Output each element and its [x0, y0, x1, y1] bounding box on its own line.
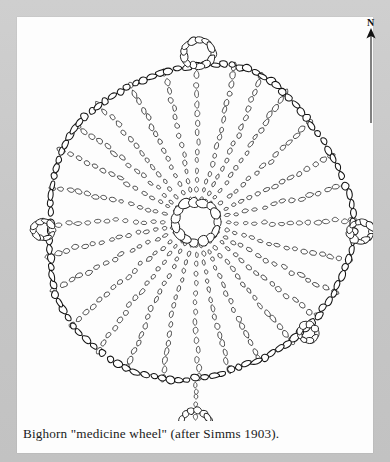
stone: [305, 308, 313, 316]
stone: [272, 151, 280, 159]
stone: [292, 246, 298, 251]
stone: [287, 221, 294, 225]
stone: [66, 221, 72, 225]
stone: [238, 157, 244, 163]
stone: [245, 105, 252, 113]
stone: [145, 208, 152, 213]
stone: [219, 339, 225, 347]
stone: [256, 302, 263, 309]
stone: [118, 199, 123, 203]
stone: [133, 142, 140, 149]
stone: [332, 217, 339, 221]
stone: [179, 142, 184, 148]
stone: [288, 270, 295, 276]
stone: [177, 181, 182, 187]
stone: [217, 332, 223, 340]
stone: [93, 264, 100, 270]
stone: [132, 185, 138, 191]
stone: [282, 293, 290, 300]
stone: [214, 323, 220, 330]
stone: [117, 175, 125, 181]
stone: [194, 389, 198, 394]
stone: [47, 269, 56, 282]
stone: [341, 219, 348, 224]
stone: [50, 172, 58, 180]
stone: [223, 99, 229, 107]
stone: [213, 265, 218, 271]
stone: [228, 298, 234, 305]
stone: [157, 288, 163, 295]
stone: [286, 174, 294, 180]
stone: [90, 241, 96, 246]
stone: [162, 233, 169, 238]
stone: [210, 161, 216, 168]
stone: [52, 163, 61, 174]
stone: [165, 155, 171, 162]
stone: [279, 198, 286, 203]
stone: [197, 139, 200, 145]
stone: [278, 222, 284, 225]
stone: [164, 347, 170, 356]
stone: [195, 177, 198, 182]
stone: [212, 244, 218, 251]
stone: [162, 178, 168, 184]
stone: [238, 198, 245, 204]
stone: [251, 88, 258, 96]
stone: [135, 339, 142, 347]
stone: [265, 109, 274, 119]
stone: [137, 260, 143, 266]
stone: [211, 181, 216, 188]
stone: [87, 132, 95, 140]
stone: [161, 280, 167, 286]
stone: [100, 108, 108, 116]
stone: [225, 246, 231, 252]
stone: [75, 316, 83, 323]
stone: [195, 157, 198, 162]
figure-caption: Bighorn "medicine wheel" (after Simms 19…: [23, 426, 279, 442]
stone: [223, 290, 229, 297]
stone: [262, 118, 270, 127]
stone: [131, 294, 138, 302]
stone: [151, 220, 157, 224]
stone: [254, 170, 260, 176]
stone: [169, 164, 174, 170]
stone: [202, 187, 206, 192]
stone: [292, 296, 300, 303]
stone: [241, 359, 252, 367]
stone: [332, 184, 340, 190]
stone: [142, 322, 149, 330]
stone: [229, 71, 236, 80]
stone: [141, 221, 146, 224]
stone: [67, 187, 75, 193]
stone: [84, 191, 91, 197]
stone: [224, 258, 230, 265]
stone: [172, 264, 177, 270]
stone: [234, 222, 239, 225]
stone: [109, 197, 117, 203]
stone: [144, 280, 150, 286]
stone: [196, 252, 199, 258]
stone: [134, 168, 141, 175]
stone: [153, 209, 159, 213]
stone: [246, 287, 252, 294]
stone: [346, 188, 353, 200]
stone: [322, 219, 330, 224]
stone: [222, 106, 228, 114]
stone: [122, 309, 129, 316]
stone: [164, 78, 171, 87]
stone: [320, 136, 329, 146]
stone: [75, 188, 83, 194]
stone: [269, 314, 278, 323]
stone: [191, 374, 200, 381]
stone: [260, 274, 268, 281]
stone: [262, 257, 269, 264]
stone: [233, 252, 239, 258]
stone: [212, 314, 217, 321]
stone: [125, 301, 132, 308]
stone: [208, 297, 213, 303]
stone: [225, 228, 231, 233]
stone: [104, 142, 112, 150]
stone: [109, 237, 115, 241]
stone: [241, 233, 246, 238]
stone: [91, 163, 98, 169]
